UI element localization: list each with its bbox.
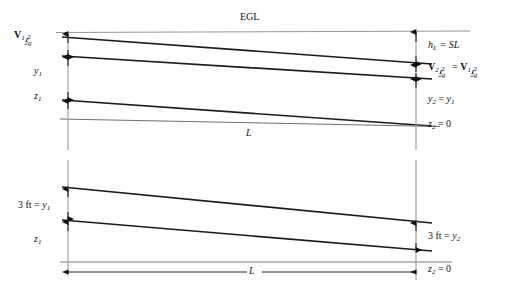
depth-equality-label: y2 = y1 <box>428 94 455 104</box>
egl-label: EGL <box>240 12 259 22</box>
lower-datum-label: z2 = 0 <box>428 264 451 274</box>
lower-channel-bed-line <box>62 220 432 251</box>
upper-datum-label: z2 = 0 <box>428 119 451 129</box>
lower-left-elevation-label: z1 <box>34 234 41 244</box>
egl-reference-line <box>56 31 470 33</box>
upper-length-label: L <box>246 128 252 138</box>
upper-channel-bed-line <box>62 100 432 126</box>
lower-length-label: L <box>249 266 255 276</box>
diagram-canvas: EGL V122g y1 z1 L hL = SL V222g = V122g … <box>0 0 521 295</box>
velocity-head-equality-label: V222g = V122g <box>428 62 482 72</box>
lower-right-depth-label: 3 ft = y2 <box>428 231 460 241</box>
head-loss-label: hL = SL <box>428 40 459 50</box>
upper-left-elevation-label: z1 <box>34 91 41 101</box>
lower-left-depth-label: 3 ft = y1 <box>18 200 50 210</box>
upper-left-velocity-head-label: V122g <box>14 30 36 40</box>
upper-left-depth-label: y1 <box>34 66 42 76</box>
lower-water-surface-line <box>62 187 432 223</box>
